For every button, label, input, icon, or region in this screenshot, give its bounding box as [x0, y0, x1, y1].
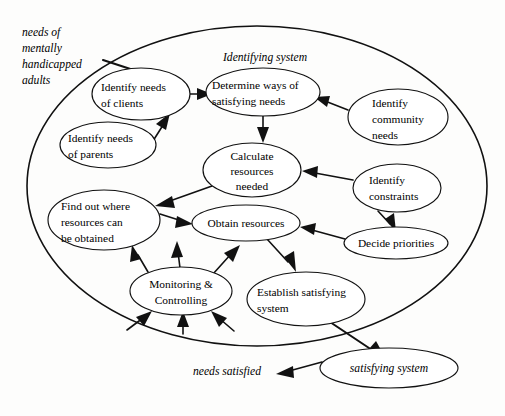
node-ellipse[interactable]	[206, 68, 320, 116]
node-label-line-2: resources	[230, 165, 274, 177]
node-label-line-1: Obtain resources	[208, 217, 285, 229]
node-identify-community-needs[interactable]: Identify community needs	[348, 89, 448, 145]
node-label-line-2: of clients	[101, 97, 144, 109]
diagram-canvas: Identifying system needs of mentally han…	[0, 0, 505, 416]
node-ellipse[interactable]	[92, 68, 190, 120]
node-label-line-1: Identify	[369, 174, 405, 186]
node-label-line-2: resources can	[61, 216, 123, 228]
node-label-line-2: satisfying needs	[212, 95, 286, 107]
node-label-line-1: Identify needs	[101, 81, 166, 93]
edge-monitoring-to-obtain	[171, 241, 183, 268]
node-identify-constraints[interactable]: Identify constraints	[353, 164, 441, 212]
node-label-line-1: Determine ways of	[212, 79, 299, 91]
edge-feedback-right-to-monitoring	[211, 311, 234, 331]
input-label-line-2: mentally	[22, 42, 63, 55]
node-find-out-where-resources-can-be-obtained[interactable]: Find out where resources can be obtained	[48, 190, 160, 250]
node-label-line-1: Establish satisfying	[257, 286, 346, 298]
edge-community-to-determine	[314, 96, 348, 110]
node-label-line-1: Calculate	[230, 150, 273, 162]
node-monitoring-and-controlling[interactable]: Monitoring & Controlling	[130, 267, 232, 315]
node-identify-needs-of-clients[interactable]: Identify needs of clients	[92, 68, 190, 120]
edge-calculate-to-findout	[155, 186, 212, 208]
node-label-line-2: constraints	[369, 190, 419, 202]
edge-constraints-to-calculate	[302, 166, 353, 180]
external-output-needs-satisfied: needs satisfied	[193, 365, 261, 378]
node-ellipse[interactable]	[60, 122, 156, 168]
edge-determine-to-calculate	[257, 116, 269, 143]
input-label-line-4: adults	[22, 74, 51, 87]
node-ellipse[interactable]	[130, 267, 232, 315]
input-label-line-3: handicapped	[22, 58, 82, 71]
edge-priorities-to-obtain	[300, 223, 345, 239]
node-ellipse[interactable]	[353, 164, 441, 212]
node-label-line-3: needs	[372, 129, 399, 141]
node-label-line-2: system	[257, 302, 289, 314]
node-label-line-2: of parents	[68, 148, 114, 160]
node-label-line-1: satisfying system	[350, 362, 428, 375]
node-ellipse[interactable]	[247, 272, 365, 326]
node-decide-priorities[interactable]: Decide priorities	[344, 227, 448, 259]
node-label-line-2: Controlling	[155, 294, 208, 306]
edge-monitoring-to-calculate	[213, 245, 240, 274]
node-label-line-2: community	[372, 113, 424, 125]
node-identify-needs-of-parents[interactable]: Identify needs of parents	[60, 122, 156, 168]
node-obtain-resources[interactable]: Obtain resources	[192, 205, 300, 241]
edge-satisfying-system-to-needs-satisfied	[276, 362, 322, 378]
node-satisfying-system[interactable]: satisfying system	[320, 348, 458, 388]
external-input-needs-of-mentally-handicapped-adults: needs of mentally handicapped adults	[22, 26, 82, 87]
node-label-line-1: Decide priorities	[358, 237, 435, 249]
node-determine-ways-of-satisfying-needs[interactable]: Determine ways of satisfying needs	[206, 68, 320, 116]
node-label-line-3: be obtained	[61, 232, 114, 244]
edge-obtain-to-establish	[267, 239, 296, 272]
edge-findout-to-obtain	[160, 214, 193, 228]
node-label-line-3: needed	[236, 180, 269, 192]
node-establish-satisfying-system[interactable]: Establish satisfying system	[247, 272, 365, 326]
node-label-line-1: Find out where	[61, 200, 130, 212]
node-label-line-1: Identify	[372, 97, 408, 109]
node-label-line-1: Monitoring &	[149, 278, 213, 290]
node-calculate-resources-needed[interactable]: Calculate resources needed	[203, 143, 301, 197]
input-label-line-1: needs of	[22, 26, 62, 39]
boundary-label: Identifying system	[222, 51, 307, 64]
edge-monitoring-to-findout	[130, 245, 148, 272]
node-label-line-1: Identify needs	[68, 132, 133, 144]
diagram-root: Identifying system needs of mentally han…	[0, 0, 505, 416]
